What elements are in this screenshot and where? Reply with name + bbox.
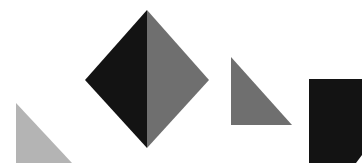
geometric-shapes-canvas — [0, 0, 362, 163]
black-rectangle — [309, 79, 362, 163]
